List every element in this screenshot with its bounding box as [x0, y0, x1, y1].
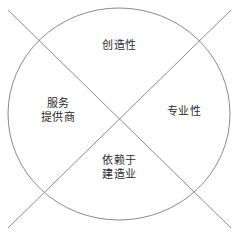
quadrant-label-bottom: 依赖于 建造业: [0, 154, 239, 182]
quadrant-label-bottom-line-2: 建造业: [0, 168, 239, 182]
quadrant-label-left: 服务 提供商: [16, 97, 100, 125]
quadrant-label-right: 专业性: [144, 105, 224, 119]
diagram-canvas: 创造性 服务 提供商 专业性 依赖于 建造业: [0, 0, 239, 235]
quadrant-label-left-line-2: 提供商: [16, 111, 100, 125]
quadrant-label-right-line-1: 专业性: [144, 105, 224, 119]
quadrant-label-bottom-line-1: 依赖于: [0, 154, 239, 168]
quadrant-label-left-line-1: 服务: [16, 97, 100, 111]
quadrant-label-top: 创造性: [0, 39, 239, 53]
quadrant-label-top-line-1: 创造性: [0, 39, 239, 53]
